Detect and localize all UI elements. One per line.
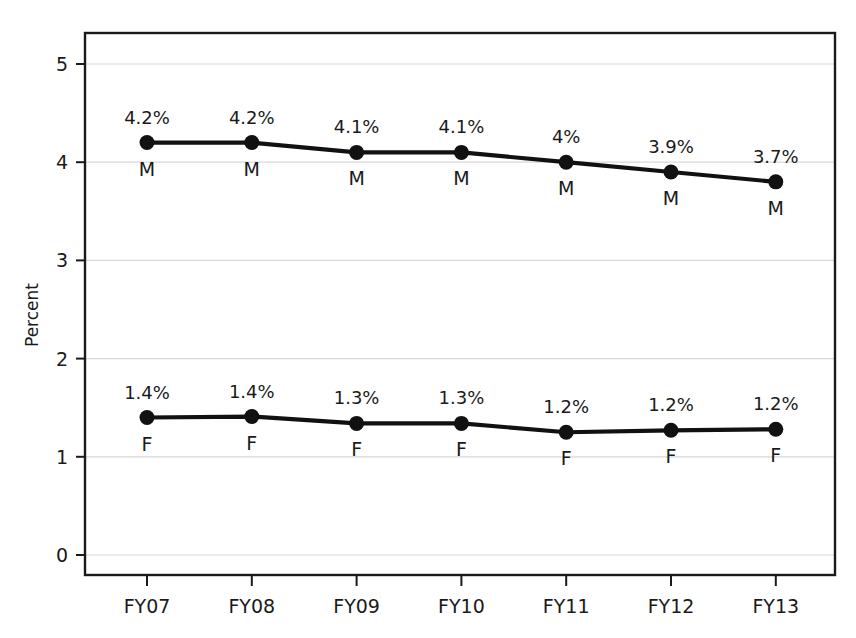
value-label-M-FY12: 3.9% xyxy=(648,136,694,157)
y-tick-label-4: 4 xyxy=(56,151,68,173)
line-chart: 012345 FY07FY08FY09FY10FY11FY12FY13 4.2%… xyxy=(0,0,856,638)
x-tick-label-FY08: FY08 xyxy=(228,595,275,617)
series-letter-M-FY09: M xyxy=(348,167,364,189)
series-letter-F-FY07: F xyxy=(142,433,153,455)
y-tick-label-5: 5 xyxy=(56,53,68,75)
data-point-F-FY08 xyxy=(244,409,259,424)
y-axis: 012345 xyxy=(56,53,85,566)
plot-background xyxy=(85,33,835,575)
series-letter-M-FY11: M xyxy=(558,177,574,199)
x-tick-label-FY13: FY13 xyxy=(752,595,799,617)
data-point-M-FY13 xyxy=(768,174,783,189)
data-point-F-FY13 xyxy=(768,422,783,437)
x-axis: FY07FY08FY09FY10FY11FY12FY13 xyxy=(124,575,800,617)
data-point-F-FY07 xyxy=(140,410,155,425)
series-letter-M-FY10: M xyxy=(453,167,469,189)
y-tick-label-3: 3 xyxy=(56,249,68,271)
chart-canvas: 012345 FY07FY08FY09FY10FY11FY12FY13 4.2%… xyxy=(0,0,856,638)
data-point-F-FY10 xyxy=(454,416,469,431)
value-label-M-FY09: 4.1% xyxy=(334,116,380,137)
x-tick-label-FY07: FY07 xyxy=(124,595,171,617)
data-point-M-FY07 xyxy=(140,135,155,150)
series-letter-M-FY07: M xyxy=(139,158,155,180)
x-tick-label-FY12: FY12 xyxy=(648,595,695,617)
data-point-F-FY09 xyxy=(349,416,364,431)
series-letter-F-FY12: F xyxy=(666,445,677,467)
series-letter-F-FY13: F xyxy=(770,444,781,466)
y-axis-title: Percent xyxy=(22,283,42,347)
series-letter-F-FY11: F xyxy=(561,447,572,469)
value-label-F-FY09: 1.3% xyxy=(334,387,380,408)
data-point-M-FY09 xyxy=(349,145,364,160)
value-label-M-FY11: 4% xyxy=(552,126,581,147)
data-point-M-FY11 xyxy=(559,155,574,170)
value-label-F-FY12: 1.2% xyxy=(648,394,694,415)
x-tick-label-FY10: FY10 xyxy=(438,595,485,617)
y-tick-label-2: 2 xyxy=(56,348,68,370)
series-letter-M-FY13: M xyxy=(768,197,784,219)
series-letter-F-FY08: F xyxy=(246,432,257,454)
value-label-F-FY10: 1.3% xyxy=(439,387,485,408)
x-tick-label-FY09: FY09 xyxy=(333,595,380,617)
value-label-F-FY13: 1.2% xyxy=(753,393,799,414)
series-letter-F-FY10: F xyxy=(456,438,467,460)
data-point-F-FY12 xyxy=(664,423,679,438)
value-label-M-FY08: 4.2% xyxy=(229,107,275,128)
data-point-M-FY10 xyxy=(454,145,469,160)
value-label-M-FY10: 4.1% xyxy=(439,116,485,137)
series-letter-M-FY12: M xyxy=(663,187,679,209)
data-point-M-FY08 xyxy=(244,135,259,150)
series-letter-M-FY08: M xyxy=(244,158,260,180)
x-tick-label-FY11: FY11 xyxy=(543,595,590,617)
value-label-F-FY08: 1.4% xyxy=(229,381,275,402)
y-tick-label-1: 1 xyxy=(56,446,68,468)
value-label-M-FY07: 4.2% xyxy=(124,107,170,128)
series-letter-F-FY09: F xyxy=(351,438,362,460)
value-label-F-FY11: 1.2% xyxy=(543,396,589,417)
value-label-M-FY13: 3.7% xyxy=(753,146,799,167)
data-point-M-FY12 xyxy=(664,165,679,180)
y-tick-label-0: 0 xyxy=(56,544,68,566)
value-label-F-FY07: 1.4% xyxy=(124,382,170,403)
data-point-F-FY11 xyxy=(559,425,574,440)
